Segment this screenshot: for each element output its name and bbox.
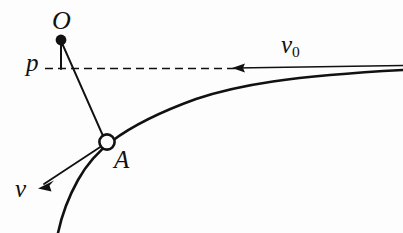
label-p: p	[26, 50, 39, 75]
velocity-vector-line	[44, 147, 101, 185]
radius-vector-line	[62, 42, 104, 137]
label-v0: v0	[281, 32, 300, 60]
label-A: A	[114, 147, 129, 172]
label-v0-symbol: v	[281, 31, 292, 58]
scattering-diagram-figure: O p A v v0	[0, 0, 403, 233]
label-v: v	[15, 176, 26, 201]
label-O: O	[52, 8, 71, 34]
label-v0-subscript: 0	[292, 43, 300, 60]
hyperbola-trajectory-path	[58, 70, 403, 233]
particle-marker-A	[99, 134, 114, 149]
force-center-dot	[56, 35, 67, 46]
incoming-asymptote-line	[236, 66, 403, 69]
